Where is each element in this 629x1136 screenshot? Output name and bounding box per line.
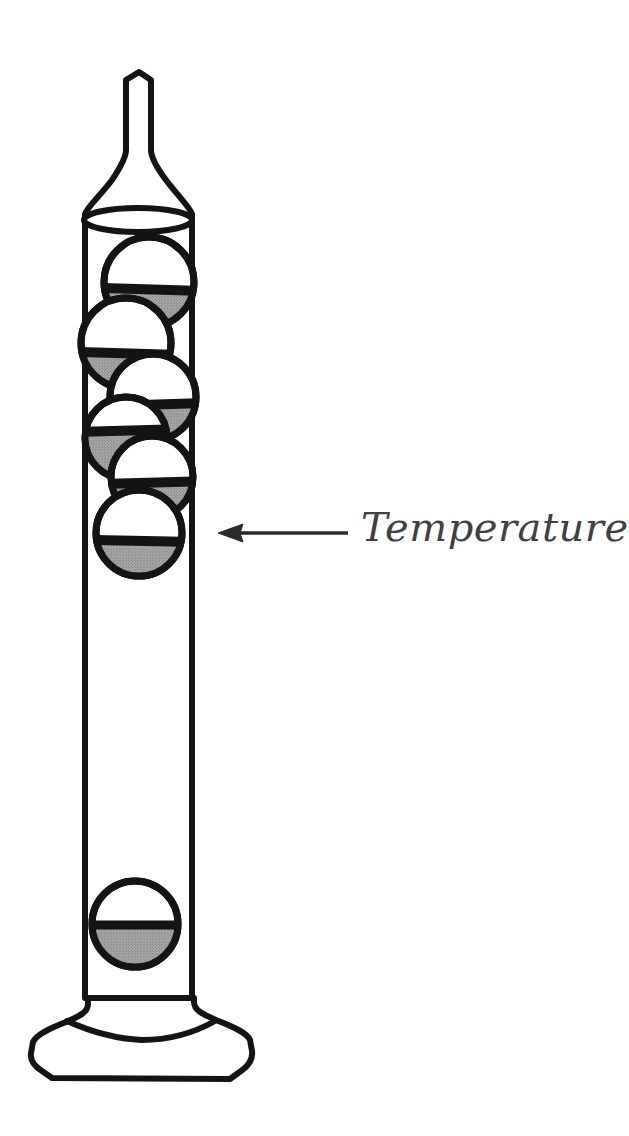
temperature-label: Temperature — [361, 507, 629, 547]
temperature-arrow — [218, 524, 348, 542]
liquid-surface-ellipse — [84, 208, 192, 232]
arrow-head — [218, 524, 243, 542]
